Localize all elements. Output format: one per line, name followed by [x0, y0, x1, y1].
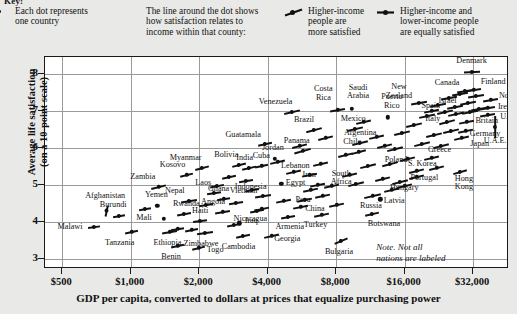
key-line: one country [15, 16, 156, 26]
data-point-label: U.A.E. [484, 137, 507, 146]
data-point-mark [365, 210, 380, 219]
data-point-mark [235, 231, 250, 240]
data-point-mark [254, 162, 268, 171]
x-axis-tick-mark [404, 268, 405, 274]
y-axis-tick-mark [38, 221, 44, 222]
data-point-dot [452, 104, 457, 109]
data-point-mark-unlabeled [318, 134, 334, 143]
key-line: are equally satisfied [400, 27, 516, 37]
key-line: Higher-income and [400, 6, 516, 16]
data-point-dot [444, 120, 449, 125]
data-point-mark-unlabeled [229, 199, 244, 207]
data-point-label: Denmark [456, 57, 486, 66]
data-point-mark [194, 163, 209, 172]
data-point-dot [269, 233, 274, 238]
data-point-label: Iran [303, 170, 316, 179]
data-point-mark [280, 213, 295, 221]
data-point-mark [214, 208, 230, 217]
gridline-horizontal [45, 185, 507, 186]
x-axis-tick-label: $16,000 [387, 276, 421, 287]
data-point-mark-unlabeled [359, 161, 376, 171]
key-line: people are [308, 16, 392, 26]
y-axis-tick-mark [38, 258, 44, 259]
data-point-mark [162, 228, 178, 237]
y-axis-tick-label: 3 [20, 251, 38, 263]
data-point-label: SaudiArabia [347, 84, 369, 101]
data-point-dot [285, 215, 290, 220]
flat-dash-dot-icon [376, 8, 396, 17]
x-axis-tick-label: $32,000 [455, 276, 489, 287]
data-point-mark [177, 209, 192, 217]
data-point-label: Canada [435, 79, 460, 88]
data-point-dot [226, 175, 231, 180]
chart-note-line1: Note. Not all [376, 242, 445, 253]
data-point-label: Malawi [58, 223, 83, 232]
data-point-label: Zimbabwe [183, 240, 218, 249]
data-point-dot [469, 70, 473, 74]
data-point-label: Italy [425, 115, 440, 124]
data-point-dot [240, 233, 245, 238]
data-point-dot [155, 204, 159, 208]
data-point-label: Mexico [341, 115, 366, 124]
data-point-mark [125, 228, 139, 237]
data-point-mark-unlabeled [315, 191, 331, 200]
data-point-label: Russia [360, 202, 382, 211]
gridline-horizontal [45, 74, 507, 75]
chart-note-line2: nations are labeled [376, 253, 445, 264]
data-point-dot [392, 147, 397, 152]
key-line: lower-income people [400, 16, 516, 26]
data-point-dot [198, 219, 203, 224]
data-point-dot [259, 164, 264, 169]
key-line: Each dot represents [15, 6, 156, 16]
data-point-mark [350, 147, 366, 157]
data-point-dot [186, 199, 191, 204]
data-point-label: Burundi [100, 201, 127, 210]
gridline-vertical [131, 57, 132, 267]
data-point-dot [246, 165, 251, 170]
data-point-label: HongKong [455, 175, 473, 192]
data-point-dot [488, 97, 493, 102]
data-point-label: Bulgaria [325, 248, 353, 257]
data-point-label: Finland [481, 78, 506, 87]
data-point-dot [259, 206, 264, 211]
key-line: income within that county: [146, 27, 306, 37]
data-point-dot [92, 225, 97, 230]
data-point-label: Spain [421, 102, 440, 111]
data-point-label: Egypt [286, 179, 306, 188]
data-point-dot [370, 212, 375, 217]
data-point-dot [431, 132, 436, 137]
data-point-mark-unlabeled [276, 197, 292, 206]
data-point-label: Georgia [274, 234, 300, 243]
data-point-label: Portugal [410, 174, 438, 183]
x-axis-tick-label: $2,000 [184, 276, 213, 287]
x-axis-tick-mark [335, 268, 336, 274]
data-point-dot [442, 110, 447, 115]
data-point-label: Nicaragua [233, 214, 267, 223]
data-point-dot [162, 216, 166, 220]
data-point-mark [454, 134, 470, 143]
data-point-label: Nepal [165, 187, 185, 196]
data-point-mark-unlabeled [425, 130, 442, 139]
data-point-label: Hungary [390, 183, 419, 192]
data-point-dot [275, 160, 280, 165]
data-point-mark-unlabeled [375, 174, 391, 183]
data-point-mark [306, 125, 323, 135]
data-point-dot [281, 199, 286, 204]
x-axis-tick-label: $8,000 [321, 276, 350, 287]
data-point-dot [386, 115, 390, 119]
x-axis-tick-mark [267, 268, 268, 274]
data-point-dot [167, 230, 172, 235]
data-point-label: Ireland [498, 102, 508, 111]
data-point-label: Mali [136, 213, 151, 222]
data-point-dot [318, 162, 323, 167]
data-point-dot [234, 201, 239, 206]
data-point-mark-unlabeled [328, 200, 344, 209]
data-point-label: Ghana [208, 184, 229, 193]
data-point-mark-unlabeled [442, 126, 459, 135]
key-line: more satisfied [308, 27, 392, 37]
x-axis-tick-mark [472, 268, 473, 274]
data-point-label: Zambia [130, 173, 155, 182]
data-point-dot [493, 125, 497, 129]
data-point-dot [319, 212, 324, 217]
x-axis-tick-label: $1,000 [115, 276, 144, 287]
